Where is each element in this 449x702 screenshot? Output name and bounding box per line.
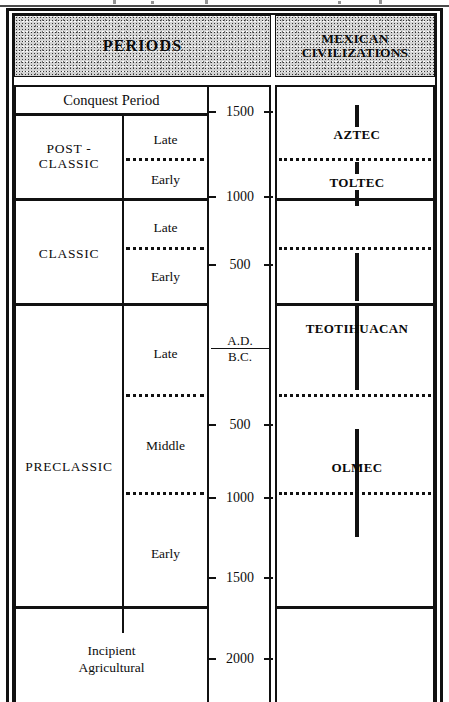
scan-speck bbox=[379, 0, 382, 4]
scan-speck bbox=[113, 0, 116, 4]
dotted-classic-late-early bbox=[126, 247, 204, 250]
periods-header-cell: PERIODS bbox=[14, 15, 271, 77]
scan-artifact-line bbox=[0, 5, 449, 7]
periods-header-label: PERIODS bbox=[103, 38, 183, 55]
toltec-range-bar bbox=[355, 162, 359, 174]
label-postclassic-late: Late bbox=[124, 132, 207, 147]
label-postclassic-early: Early bbox=[124, 172, 207, 187]
rule-preclassic-bottom bbox=[16, 606, 207, 609]
scan-speck bbox=[338, 1, 341, 4]
rule-postclassic-bottom bbox=[16, 198, 207, 201]
tick-label: 1000 bbox=[207, 490, 273, 506]
label-classic-early: Early bbox=[124, 269, 207, 284]
label-aztec: AZTEC bbox=[277, 127, 437, 143]
label-preclassic-early: Early bbox=[124, 546, 207, 561]
label-preclassic-late: Late bbox=[124, 346, 207, 361]
dotted-civ-classic-mid bbox=[279, 247, 431, 250]
scan-speck bbox=[151, 1, 154, 4]
olmec-range-bar bbox=[355, 429, 359, 537]
civilizations-header-cell: MEXICAN CIVILIZATIONS bbox=[275, 15, 435, 77]
teotihuacan-range-bar-lower bbox=[355, 306, 359, 390]
dotted-civ-aztec-toltec bbox=[279, 158, 431, 161]
dotted-preclassic-late-middle bbox=[126, 394, 204, 397]
teotihuacan-range-bar-upper bbox=[355, 253, 359, 301]
tick-label: 500 bbox=[207, 417, 273, 433]
aztec-range-bar bbox=[355, 105, 359, 127]
era-label-bc: B.C. bbox=[207, 349, 273, 365]
scan-speck bbox=[205, 0, 208, 4]
dotted-preclassic-middle-early bbox=[126, 492, 204, 495]
tick-label: 500 bbox=[207, 257, 273, 273]
label-postclassic: POST - CLASSIC bbox=[16, 141, 122, 171]
label-conquest-period: Conquest Period bbox=[16, 92, 207, 108]
label-toltec: TOLTEC bbox=[277, 175, 437, 191]
civilizations-panel: AZTEC TOLTEC TEOTIHUACAN OLMEC bbox=[275, 85, 435, 702]
dotted-civ-teotihuacan-end bbox=[279, 394, 431, 397]
label-classic: CLASSIC bbox=[16, 246, 122, 261]
tick-label: 1000 bbox=[207, 189, 273, 205]
label-incipient-agricultural: Incipient Agricultural bbox=[16, 643, 207, 677]
rule-conquest-bottom bbox=[16, 113, 207, 116]
label-olmec: OLMEC bbox=[277, 460, 437, 476]
rule-classic-bottom bbox=[16, 303, 207, 306]
rule-civ-preclassic-bottom bbox=[277, 606, 433, 609]
label-teotihuacan: TEOTIHUACAN bbox=[277, 321, 437, 337]
label-preclassic: PRECLASSIC bbox=[16, 459, 122, 474]
tick-label: 2000 bbox=[207, 651, 273, 667]
toltec-range-bar-lower bbox=[355, 190, 359, 206]
label-preclassic-middle: Middle bbox=[124, 438, 207, 453]
civilizations-header-label: MEXICAN CIVILIZATIONS bbox=[276, 32, 434, 60]
tick-label: 1500 bbox=[207, 570, 273, 586]
era-label-ad: A.D. bbox=[207, 333, 273, 349]
dotted-postclassic-late-early bbox=[126, 158, 204, 161]
label-classic-late: Late bbox=[124, 220, 207, 235]
chronology-chart: PERIODS MEXICAN CIVILIZATIONS Conquest P… bbox=[0, 0, 449, 702]
tick-label: 1500 bbox=[207, 104, 273, 120]
time-scale-column: 1500 1000 500 A.D. B.C. 500 1000 bbox=[207, 85, 273, 702]
